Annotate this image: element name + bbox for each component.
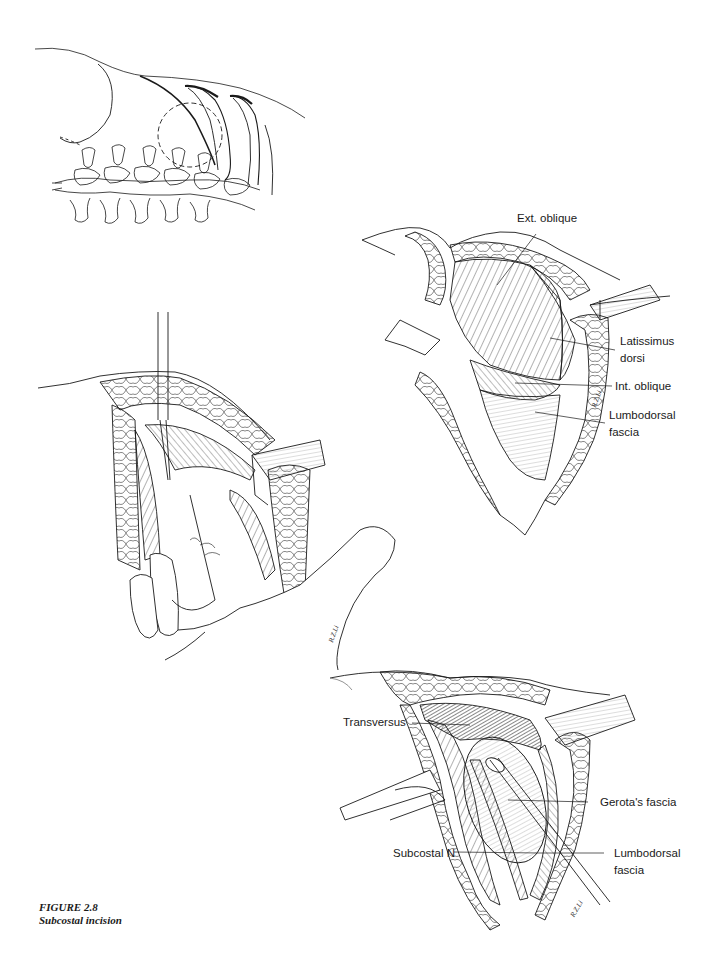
label-gerotas-fascia: Gerota's fascia bbox=[600, 794, 676, 811]
label-lumbodorsal-line2: fascia bbox=[609, 424, 675, 441]
panel-spine-overview bbox=[35, 48, 305, 223]
figure-number: FIGURE 2.8 bbox=[39, 901, 122, 914]
label-latissimus-dorsi: Latissimus dorsi bbox=[620, 333, 674, 367]
label-lumbodorsal-line2: fascia bbox=[614, 862, 680, 879]
label-subcostal-n: Subcostal N bbox=[393, 845, 455, 862]
panel-finger-dissection bbox=[38, 312, 395, 670]
label-lumbodorsal-fascia-lower: Lumbodorsal fascia bbox=[614, 845, 680, 879]
label-lumbodorsal-line1: Lumbodorsal bbox=[614, 845, 680, 862]
label-int-oblique: Int. oblique bbox=[615, 378, 671, 395]
panel-deep-layer bbox=[330, 671, 635, 930]
label-transversus: Transversus bbox=[343, 714, 406, 731]
label-lumbodorsal-fascia-upper: Lumbodorsal fascia bbox=[609, 407, 675, 441]
label-latissimus-line1: Latissimus bbox=[620, 333, 674, 350]
label-lumbodorsal-line1: Lumbodorsal bbox=[609, 407, 675, 424]
label-latissimus-line2: dorsi bbox=[620, 350, 674, 367]
figure-title: Subcostal incision bbox=[39, 914, 122, 927]
surgical-illustration bbox=[0, 0, 724, 973]
label-ext-oblique: Ext. oblique bbox=[517, 210, 577, 227]
figure-page: Ext. oblique Latissimus dorsi Int. obliq… bbox=[0, 0, 724, 973]
figure-caption: FIGURE 2.8 Subcostal incision bbox=[39, 901, 122, 927]
